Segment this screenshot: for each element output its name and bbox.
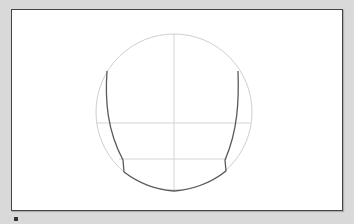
head-sketch bbox=[0, 0, 354, 224]
corner-mark bbox=[14, 217, 18, 221]
face-outline bbox=[106, 71, 238, 191]
